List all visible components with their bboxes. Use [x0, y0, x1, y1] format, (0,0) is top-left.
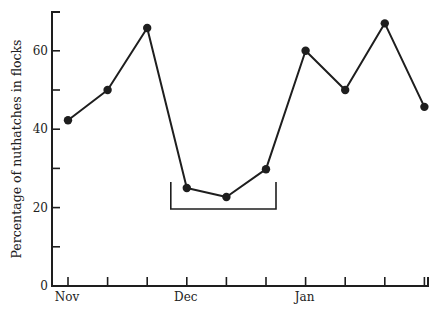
y-axis-ticks: 0204060 — [33, 44, 60, 293]
y-tick-label: 20 — [33, 201, 48, 215]
x-tick-label: Jan — [293, 290, 315, 304]
data-point — [381, 19, 389, 27]
data-point — [64, 116, 72, 124]
data-point — [103, 86, 111, 94]
series-line — [68, 23, 424, 197]
data-point — [301, 47, 309, 55]
axes — [52, 12, 428, 286]
y-axis-label: Percentage of nuthatches in flocks — [9, 39, 24, 258]
data-point — [143, 24, 151, 32]
data-point — [262, 165, 270, 173]
y-tick-label: 60 — [33, 44, 48, 58]
data-point — [183, 184, 191, 192]
data-series — [64, 19, 429, 201]
y-tick-label: 0 — [40, 279, 48, 293]
y-axis-title: Percentage of nuthatches in flocks — [9, 39, 24, 258]
data-point — [420, 103, 428, 111]
line-chart: Percentage of nuthatches in flocks 02040… — [0, 0, 444, 311]
data-point — [222, 193, 230, 201]
axis-lines — [52, 12, 428, 286]
data-point — [341, 86, 349, 94]
x-axis-ticks: NovDecJan — [55, 277, 425, 304]
x-tick-label: Nov — [55, 290, 80, 304]
x-tick-label: Dec — [174, 290, 198, 304]
y-tick-label: 40 — [33, 122, 48, 136]
